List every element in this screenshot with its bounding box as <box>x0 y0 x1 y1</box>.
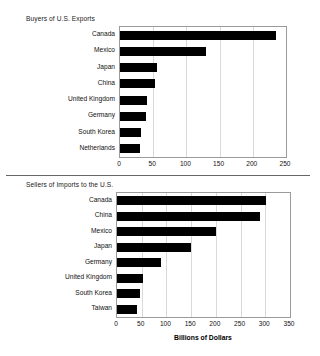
x-tick-label: 150 <box>185 320 196 328</box>
category-labels-imports: CanadaChinaMexicoJapanGermanyUnited King… <box>8 192 112 318</box>
bar <box>117 227 216 236</box>
category-label: Canada <box>92 30 115 38</box>
x-tick-label: 50 <box>149 160 156 168</box>
category-labels-exports: CanadaMexicoJapanChinaUnited KingdomGerm… <box>10 26 115 158</box>
category-label: China <box>98 79 115 87</box>
bar-row <box>120 63 286 72</box>
category-label: Japan <box>97 63 115 71</box>
bar-row <box>117 196 290 205</box>
category-label: Taiwan <box>91 304 112 312</box>
bar <box>117 212 260 221</box>
bar <box>120 128 141 137</box>
bar <box>117 305 137 314</box>
bar-row <box>117 258 290 267</box>
dual-bar-chart-figure: Buyers of U.S. Exports CanadaMexicoJapan… <box>0 0 320 356</box>
plot-area-exports <box>119 26 287 158</box>
category-label: Mexico <box>91 227 112 235</box>
bar <box>120 144 140 153</box>
category-label: Canada <box>89 196 112 204</box>
bar <box>117 289 140 298</box>
bar-row <box>120 79 286 88</box>
bar-row <box>117 289 290 298</box>
bar <box>120 47 206 56</box>
bar <box>117 258 161 267</box>
bar-row <box>117 243 290 252</box>
bar-row <box>117 305 290 314</box>
bar <box>120 112 146 121</box>
category-label: Netherlands <box>79 144 115 152</box>
bar-row <box>117 227 290 236</box>
bar <box>117 243 191 252</box>
category-label: Mexico <box>94 46 115 54</box>
bar-row <box>120 112 286 121</box>
category-label: Japan <box>94 242 112 250</box>
bar-row <box>117 274 290 283</box>
x-axis-title-imports: Billions of Dollars <box>174 333 232 342</box>
x-axis-imports: 050100150200250300350 <box>116 320 291 332</box>
x-tick-label: 250 <box>279 160 290 168</box>
x-tick-label: 150 <box>213 160 224 168</box>
x-tick-label: 0 <box>117 160 121 168</box>
chart-panel-exports: Buyers of U.S. Exports CanadaMexicoJapan… <box>0 0 320 176</box>
x-tick-label: 100 <box>160 320 171 328</box>
x-tick-label: 250 <box>234 320 245 328</box>
bar-row <box>120 31 286 40</box>
category-label: Germany <box>88 111 115 119</box>
x-tick-label: 350 <box>283 320 294 328</box>
category-label: Germany <box>85 258 112 266</box>
chart-title-imports: Sellers of Imports to the U.S. <box>26 181 113 189</box>
chart-title-exports: Buyers of U.S. Exports <box>26 15 95 23</box>
x-tick-label: 100 <box>180 160 191 168</box>
bar <box>120 79 155 88</box>
x-tick-label: 300 <box>259 320 270 328</box>
bar-row <box>120 128 286 137</box>
bar <box>120 31 276 40</box>
plot-area-imports <box>116 192 291 318</box>
x-tick-label: 50 <box>137 320 144 328</box>
bar-row <box>120 47 286 56</box>
bar <box>120 96 147 105</box>
bar-row <box>120 96 286 105</box>
bar-row <box>117 212 290 221</box>
x-tick-label: 200 <box>209 320 220 328</box>
category-label: United Kingdom <box>68 95 115 103</box>
bar <box>117 274 143 283</box>
category-label: United Kingdom <box>65 273 112 281</box>
category-label: South Korea <box>78 128 115 136</box>
x-tick-label: 200 <box>246 160 257 168</box>
x-tick-label: 0 <box>114 320 118 328</box>
bar <box>117 196 266 205</box>
bar <box>120 63 157 72</box>
bar-row <box>120 144 286 153</box>
category-label: South Korea <box>75 289 112 297</box>
x-axis-exports: 050100150200250 <box>119 160 287 172</box>
category-label: China <box>95 211 112 219</box>
